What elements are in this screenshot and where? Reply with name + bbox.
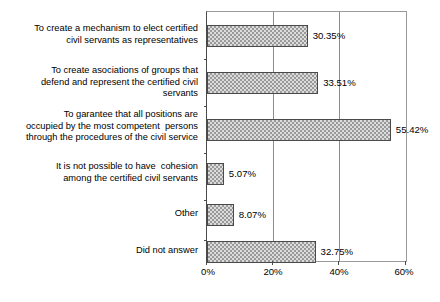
x-tick-mark-0 [206,261,207,265]
bar-value-0: 30.35% [313,25,346,47]
bar-value-3: 5.07% [229,163,256,185]
y-tick-0 [204,59,207,60]
category-label-0: To create a mechanism to elect certified… [2,23,198,46]
plot-area: 30.35% 33.51% 55.42% 5.07% 8.07% 32.75% [206,11,407,262]
bar-value-1: 33.51% [323,72,356,94]
x-tick-label-1: 20% [263,266,282,277]
bar-2[interactable] [207,119,391,141]
bar-5[interactable] [207,241,316,263]
bar-3[interactable] [207,163,224,185]
category-label-2: To garantee that all positions are occup… [2,109,198,144]
y-tick-2 [204,153,207,154]
x-tick-label-0: 0% [201,266,215,277]
bar-0[interactable] [207,25,308,47]
x-tick-mark-3 [405,261,406,265]
x-tick-label-3: 60% [394,266,413,277]
bar-value-4: 8.07% [239,204,266,226]
bar-4[interactable] [207,204,234,226]
x-tick-mark-2 [338,261,339,265]
y-tick-1 [204,106,207,107]
category-axis-labels: To create a mechanism to elect certified… [0,0,202,302]
bar-chart: To create a mechanism to elect certified… [0,0,440,302]
bar-value-5: 32.75% [321,241,354,263]
bar-1[interactable] [207,72,318,94]
bar-value-2: 55.42% [396,119,429,141]
x-tick-mark-1 [272,261,273,265]
category-label-5: Did not answer [2,245,198,257]
category-label-3: It is not possible to have cohesion amon… [2,161,198,184]
category-label-1: To create asociations of groups that def… [2,65,198,100]
x-tick-label-2: 40% [329,266,348,277]
category-label-4: Other [2,208,198,220]
y-tick-3 [204,200,207,201]
